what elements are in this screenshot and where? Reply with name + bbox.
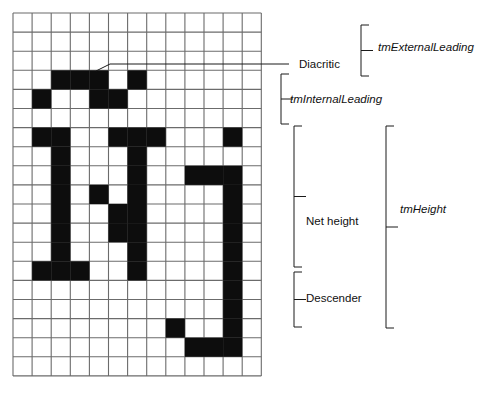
glyph-pixel <box>223 338 242 357</box>
glyph-pixel <box>70 261 89 280</box>
glyph-pixel <box>89 89 108 108</box>
glyph-pixel <box>223 300 242 319</box>
glyph-pixel <box>204 166 223 185</box>
glyph-pixel <box>223 223 242 242</box>
glyph-pixel <box>223 319 242 338</box>
glyph-pixel <box>109 223 128 242</box>
glyph-pixel <box>204 338 223 357</box>
glyph-pixel <box>32 128 51 147</box>
glyph-pixel <box>223 204 242 223</box>
glyph-pixel <box>223 185 242 204</box>
glyph-pixel <box>51 204 70 223</box>
label-tm-external-leading: tmExternalLeading <box>378 41 474 54</box>
glyph-pixel <box>51 147 70 166</box>
glyph-pixel <box>223 128 242 147</box>
glyph-pixel <box>128 242 147 261</box>
label-diacritic: Diacritic <box>299 58 340 71</box>
glyph-pixel <box>128 223 147 242</box>
glyph-pixel <box>32 89 51 108</box>
glyph-pixel <box>109 204 128 223</box>
label-net-height: Net height <box>306 215 366 229</box>
glyph-pixel <box>51 70 70 89</box>
glyph-pixel <box>128 147 147 166</box>
glyph-pixel <box>128 261 147 280</box>
glyph-pixel <box>51 185 70 204</box>
glyph-pixel <box>128 128 147 147</box>
glyph-pixel <box>185 166 204 185</box>
glyph-pixel <box>89 70 108 89</box>
glyph-pixel <box>128 70 147 89</box>
glyph-pixel <box>89 185 108 204</box>
glyph-bitmap <box>32 70 242 357</box>
glyph-pixel <box>166 319 185 338</box>
font-metrics-diagram: DiacritictmInternalLeadingtmExternalLead… <box>0 0 479 412</box>
glyph-pixel <box>223 261 242 280</box>
glyph-pixel <box>70 70 89 89</box>
glyph-pixel <box>128 185 147 204</box>
glyph-pixel <box>51 242 70 261</box>
glyph-pixel <box>223 166 242 185</box>
glyph-pixel <box>223 280 242 299</box>
glyph-pixel <box>147 128 166 147</box>
glyph-pixel <box>51 223 70 242</box>
glyph-pixel <box>109 128 128 147</box>
label-tm-height: tmHeight <box>400 203 446 216</box>
glyph-pixel <box>32 261 51 280</box>
glyph-pixel <box>51 261 70 280</box>
label-descender: Descender <box>306 292 362 305</box>
glyph-pixel <box>223 242 242 261</box>
glyph-pixel <box>51 166 70 185</box>
glyph-pixel <box>185 338 204 357</box>
glyph-pixel <box>128 166 147 185</box>
glyph-pixel <box>51 128 70 147</box>
label-tm-internal-leading: tmInternalLeading <box>290 93 382 106</box>
glyph-pixel <box>109 89 128 108</box>
glyph-pixel <box>128 204 147 223</box>
